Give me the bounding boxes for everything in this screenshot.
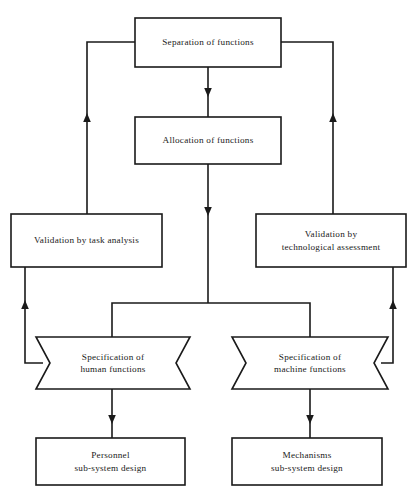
arrowhead-down-separation-allocation <box>204 88 212 97</box>
arrowhead-down-spec-machine-mechanisms <box>306 415 314 424</box>
edge-branch-to-spec-human <box>112 303 208 337</box>
node-mechanisms-outline <box>232 438 382 485</box>
edge-branch-to-spec-machine <box>208 303 310 337</box>
node-validation-tech-outline <box>256 214 406 267</box>
edge-spec-machine-to-validation-tech <box>381 267 393 363</box>
edge-validation-tech-to-separation <box>281 42 333 214</box>
arrowhead-down-allocation-branch <box>204 207 212 216</box>
node-personnel-outline <box>36 438 185 485</box>
node-validation-task-outline <box>11 214 162 267</box>
node-separation-outline <box>135 18 281 67</box>
arrowhead-up-validation-tech-separation <box>329 113 337 122</box>
edge-validation-task-to-separation <box>87 42 135 214</box>
arrowhead-down-spec-human-personnel <box>108 415 116 424</box>
arrowhead-up-spec-machine-validation-tech <box>389 300 397 309</box>
arrowhead-up-spec-human-validation-task <box>21 300 29 309</box>
node-spec-machine-outline <box>232 337 388 389</box>
node-allocation-outline <box>135 117 281 164</box>
node-spec-human-outline <box>36 337 190 389</box>
arrowhead-up-validation-task-separation <box>83 113 91 122</box>
edge-spec-human-to-validation-task <box>25 267 43 363</box>
flowchart-diagram: Separation of functions Allocation of fu… <box>0 0 416 502</box>
flowchart-canvas <box>0 0 416 502</box>
